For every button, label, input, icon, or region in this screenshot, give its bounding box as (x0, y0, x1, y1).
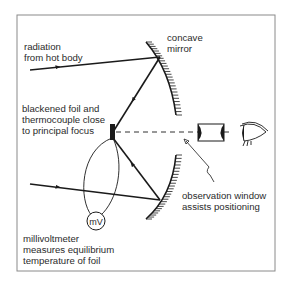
observation-window (198, 124, 224, 141)
label-foil-1: blackened foil and (22, 103, 99, 114)
label-mirror-2: mirror (167, 43, 193, 54)
label-window-1: observation window (182, 190, 266, 201)
blackened-foil (110, 124, 115, 140)
thermal-radiation-diagram: mV radiation from hot body concave mirro… (0, 0, 288, 281)
label-foil-2: thermocouple close (22, 114, 105, 125)
label-radiation-2: from hot body (24, 52, 83, 63)
label-foil-3: to principal focus (22, 125, 94, 136)
eye-icon (240, 122, 268, 146)
reflected-ray-lower (113, 138, 160, 200)
label-meter-2: measures equilibrium (23, 244, 114, 255)
label-meter-3: temperature of foil (23, 255, 100, 266)
meter-symbol: mV (89, 217, 103, 227)
thermocouple-wire-left (84, 138, 112, 216)
incident-ray-lower (30, 184, 160, 200)
thermocouple-wire-right (100, 138, 119, 216)
label-window-2: assists positioning (182, 201, 260, 212)
label-radiation-1: radiation (24, 41, 61, 52)
label-mirror-1: concave (167, 32, 203, 43)
reflected-ray-upper (113, 57, 160, 132)
label-meter-1: millivoltmeter (23, 233, 80, 244)
window-callout-pointer (186, 141, 214, 182)
concave-mirror-lower (146, 155, 182, 219)
